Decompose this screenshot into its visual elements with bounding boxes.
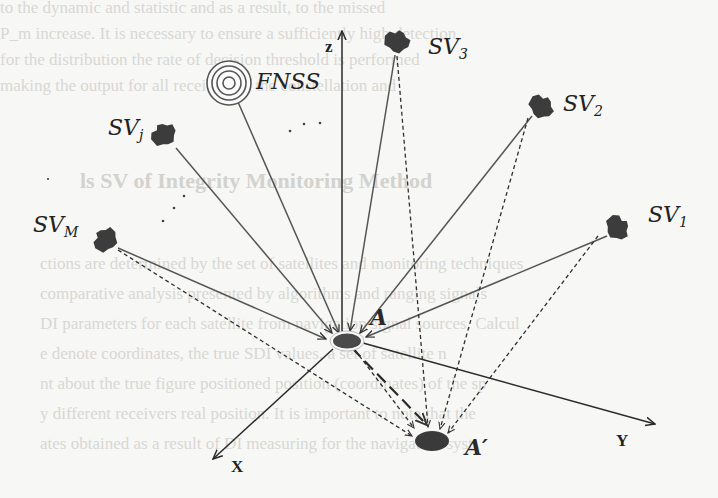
scan-dots	[47, 122, 321, 223]
y-axis-label: Y	[616, 432, 628, 449]
fnss-icon	[207, 61, 251, 105]
satellite-sv1-icon	[601, 210, 635, 244]
point-a	[333, 334, 361, 349]
satellite-svj-icon	[146, 118, 180, 152]
fnss-label: FNSS	[256, 71, 320, 93]
y-axis	[363, 343, 655, 424]
x-axis-label: X	[231, 458, 243, 475]
point-a-label: A	[370, 306, 387, 328]
satellite-sv2-label: SV2	[563, 93, 603, 118]
point-a-prime-label: A′	[465, 436, 488, 458]
figure-canvas: to the dynamic and statistic and as a re…	[0, 0, 718, 498]
point-a-prime	[415, 431, 449, 451]
spoofed-signal-lines	[118, 56, 598, 436]
z-axis-label: z	[325, 38, 333, 55]
satellite-svm-icon	[89, 222, 123, 256]
satellite-svm-label: SVM	[33, 214, 78, 239]
satellite-sv1-label: SV1	[648, 204, 688, 229]
satellite-svj-label: SVj	[108, 117, 143, 142]
displacement-arrow	[352, 348, 427, 425]
diagram-svg	[0, 0, 718, 498]
satellite-sv3-label: SV3	[428, 36, 468, 61]
satellite-sv3-icon	[382, 28, 412, 55]
x-axis	[213, 349, 333, 459]
